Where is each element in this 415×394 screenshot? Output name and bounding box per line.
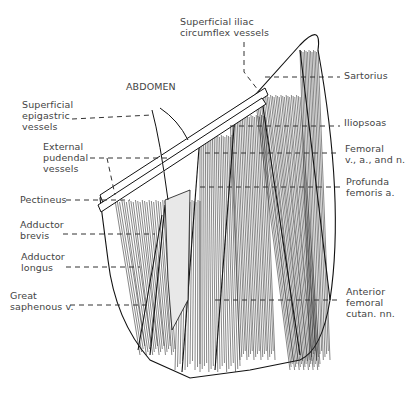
label-abdomen: ABDOMEN [126, 81, 176, 92]
label-sartorius: Sartorius [344, 70, 388, 81]
label-anterior-femoral-cutan-nn: Anterior femoral cutan. nn. [346, 286, 395, 319]
label-profunda-femoris-a: Profunda femoris a. [346, 176, 395, 198]
leader-superficial-epigastric [72, 115, 152, 119]
label-external-pudendal-vessels: External pudendal vessels [43, 141, 88, 174]
label-superficial-epigastric-vessels: Superficial epigastric vessels [22, 99, 73, 132]
label-adductor-longus: Adductor longus [21, 251, 65, 273]
anatomy-figure: ABDOMEN Superficial iliac circumflex ves… [0, 0, 415, 394]
label-pectineus: Pectineus [20, 194, 67, 205]
label-iliopsoas: Iliopsoas [344, 117, 386, 128]
label-adductor-brevis: Adductor brevis [20, 219, 64, 241]
label-great-saphenous-v: Great saphenous v. [10, 290, 74, 312]
label-superficial-iliac-circumflex-vessels: Superficial iliac circumflex vessels [180, 16, 269, 38]
epigastric-vessel-2 [160, 108, 188, 140]
leader-superficial-iliac [244, 42, 258, 90]
label-femoral-vessels-nerve: Femoral v., a., and n. [345, 143, 405, 165]
